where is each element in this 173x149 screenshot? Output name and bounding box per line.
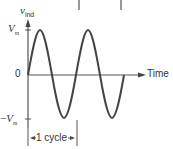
x-axis — [28, 73, 146, 78]
neg-vm-label: −Vm — [0, 112, 17, 126]
x-axis-arrow-icon — [138, 73, 146, 78]
zero-label: 0 — [15, 68, 21, 79]
vm-label: Vm — [8, 22, 19, 36]
y-axis-arrow-icon — [26, 19, 31, 27]
sine-curve — [28, 30, 124, 118]
y-axis-label: vind — [20, 4, 34, 18]
time-axis-label: Time — [147, 68, 169, 79]
cycle-label: 1 cycle — [36, 132, 67, 143]
